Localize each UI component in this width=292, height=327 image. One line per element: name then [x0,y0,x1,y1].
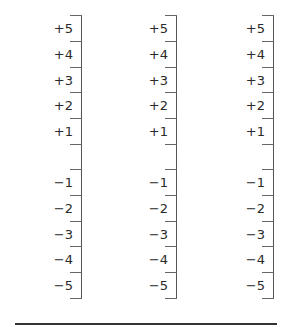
scale-tick [262,15,274,16]
scale-value-label: −2 [33,202,73,216]
scale-value-label: +5 [33,22,73,36]
scale-value-label: −1 [128,176,168,190]
scale-axis-line [81,15,82,299]
scale-value-label: +5 [128,22,168,36]
scale-tick [70,15,82,16]
scale-tick [70,41,82,42]
scale-tick [70,221,82,222]
scale-value-label: −3 [225,228,265,242]
scale-value-label: −2 [128,202,168,216]
scale-tick [70,144,82,145]
scale-value-label: −1 [225,176,265,190]
scale-axis-line [273,15,274,299]
scale-tick [262,221,274,222]
scale-value-label: +3 [225,74,265,88]
scale-tick [165,92,177,93]
scale-tick [70,92,82,93]
scale-tick [262,118,274,119]
scale-value-label: −2 [225,202,265,216]
scale-value-label: +2 [33,99,73,113]
scale-tick [165,272,177,273]
scale-tick [165,144,177,145]
scale-tick [165,15,177,16]
scale-tick [262,195,274,196]
scale-value-label: +5 [225,22,265,36]
scale-value-label: +4 [225,48,265,62]
scale-tick [70,118,82,119]
scale-axis-line [176,15,177,299]
scale-value-label: −4 [128,253,168,267]
scale-value-label: +1 [128,125,168,139]
scale-value-label: −4 [33,253,73,267]
scale-value-label: +2 [128,99,168,113]
scale-tick [262,144,274,145]
bottom-rule [15,323,277,325]
scale-tick [262,41,274,42]
scale-tick [165,246,177,247]
scale-tick [165,221,177,222]
scale-tick [70,195,82,196]
scale-tick [262,272,274,273]
scale-tick [165,41,177,42]
scale-tick [165,118,177,119]
scale-value-label: −5 [33,279,73,293]
scale-tick [262,67,274,68]
scale-value-label: +2 [225,99,265,113]
scale-value-label: +3 [33,74,73,88]
scale-tick [262,246,274,247]
scale-value-label: +1 [225,125,265,139]
scale-value-label: −3 [128,228,168,242]
scale-tick [165,298,177,299]
scale-value-label: −5 [128,279,168,293]
scale-tick [70,298,82,299]
scale-value-label: +3 [128,74,168,88]
scale-value-label: +4 [128,48,168,62]
scale-tick [262,169,274,170]
scale-value-label: −5 [225,279,265,293]
scale-value-label: −3 [33,228,73,242]
scale-tick [70,169,82,170]
scale-value-label: −4 [225,253,265,267]
scale-tick [70,246,82,247]
scale-tick [165,169,177,170]
scale-value-label: +4 [33,48,73,62]
scale-tick [165,195,177,196]
scale-value-label: −1 [33,176,73,190]
scale-value-label: +1 [33,125,73,139]
scale-tick [70,67,82,68]
scale-tick [262,92,274,93]
scale-tick [165,67,177,68]
scale-tick [70,272,82,273]
scale-tick [262,298,274,299]
